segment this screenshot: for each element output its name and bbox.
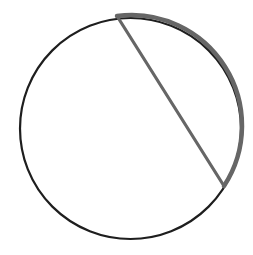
circle-chord-diagram xyxy=(0,0,253,255)
chord-line xyxy=(117,16,224,186)
circle-outline xyxy=(20,18,241,239)
diagram-canvas xyxy=(0,0,253,255)
highlighted-minor-arc xyxy=(117,15,242,186)
